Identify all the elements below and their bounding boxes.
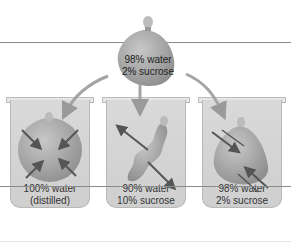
horizontal-rule-bottom [0,186,291,187]
swollen-bag-icon [18,112,82,182]
top-bag-label: 98% water 2% sucrose [110,54,186,78]
shriveled-bag-icon [120,116,172,186]
diagram-art [0,0,291,245]
unchanged-bag-icon [212,117,268,192]
